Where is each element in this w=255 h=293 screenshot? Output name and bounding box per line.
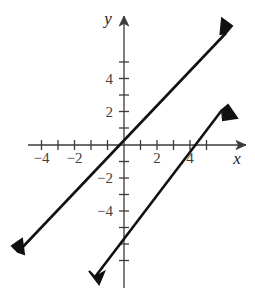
line-2-y-equals-x-minus-4 [89,105,237,284]
x-axis-label: x [232,149,241,168]
y-axis [119,16,129,288]
graph-figure: −4 −2 2 4 4 2 −2 −4 y x [0,0,255,293]
y-axis-label: y [102,9,112,28]
y-tick-label-4: 4 [106,71,114,87]
coordinate-plane-svg: −4 −2 2 4 4 2 −2 −4 y x [0,0,255,293]
x-axis [28,141,246,150]
line-1-y-equals-x [12,19,232,255]
line-1-arrowhead-lower-left [12,239,24,254]
y-tick-label-neg4: −4 [97,203,113,219]
line-1-arrowhead-upper-right [221,19,233,35]
line-2-arrowhead-upper-right [222,105,237,120]
y-tick-label-neg2: −2 [97,170,113,186]
x-tick-label-neg2: −2 [67,150,83,166]
x-tick-label-neg4: −4 [34,150,50,166]
y-tick-label-2: 2 [106,104,114,120]
x-tick-label-2: 2 [153,150,161,166]
